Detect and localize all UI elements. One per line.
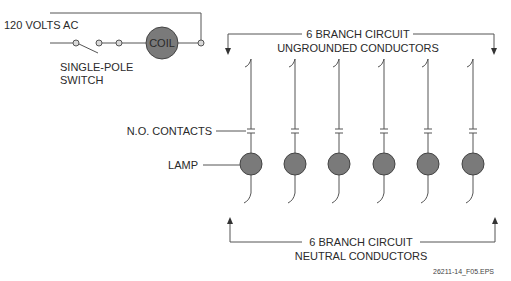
lamp-icon xyxy=(373,153,395,175)
control-circuit: 120 VOLTS AC COIL SINGLE-POLE SWITCH xyxy=(4,13,204,86)
lighting-contactor-diagram: 120 VOLTS AC COIL SINGLE-POLE SWITCH 6 B… xyxy=(0,0,511,281)
top-bracket: 6 BRANCH CIRCUIT UNGROUNDED CONDUCTORS xyxy=(225,28,497,55)
callouts: N.O. CONTACTS LAMP xyxy=(127,125,246,171)
source-label: 120 VOLTS AC xyxy=(4,19,78,31)
branch-4 xyxy=(373,59,395,203)
branch-2 xyxy=(284,59,306,203)
switch-terminal-icon xyxy=(73,40,79,46)
terminal-icon xyxy=(116,40,122,46)
bottom-bracket-line2: NEUTRAL CONDUCTORS xyxy=(295,250,428,262)
lamp-icon xyxy=(328,153,350,175)
coil-label: COIL xyxy=(149,37,175,49)
branch-3 xyxy=(328,59,350,203)
top-bracket-line1: 6 BRANCH CIRCUIT xyxy=(306,28,410,40)
lamp-icon xyxy=(417,153,439,175)
bottom-bracket: 6 BRANCH CIRCUIT NEUTRAL CONDUCTORS xyxy=(227,217,498,262)
lamp-icon xyxy=(462,153,484,175)
bottom-bracket-line1: 6 BRANCH CIRCUIT xyxy=(309,236,413,248)
terminal-icon xyxy=(198,40,204,46)
arrow-up-icon xyxy=(492,217,498,224)
switch-label-line1: SINGLE-POLE xyxy=(60,61,133,73)
lamp-icon xyxy=(240,153,262,175)
contacts-callout: N.O. CONTACTS xyxy=(127,125,212,137)
branch-5 xyxy=(417,59,439,203)
switch-terminal-icon xyxy=(96,40,102,46)
switch-blade xyxy=(79,44,98,53)
arrow-down-icon xyxy=(225,48,231,55)
top-bracket-line2: UNGROUNDED CONDUCTORS xyxy=(277,42,439,54)
branch-circuits xyxy=(240,59,484,203)
arrow-up-icon xyxy=(227,217,233,224)
branch-6 xyxy=(462,59,484,203)
lamp-icon xyxy=(284,153,306,175)
arrow-down-icon xyxy=(491,48,497,55)
switch-label-line2: SWITCH xyxy=(60,74,103,86)
figure-id: 26211-14_F05.EPS xyxy=(433,268,494,276)
lamp-callout: LAMP xyxy=(168,159,198,171)
